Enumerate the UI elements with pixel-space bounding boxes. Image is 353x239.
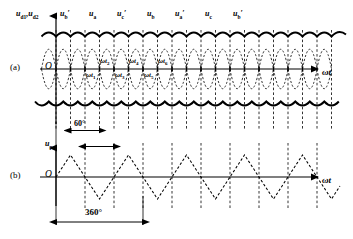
phase-label-b-prime-2: ub′: [233, 10, 243, 20]
period-360-label: 360°: [85, 208, 102, 217]
panel-b-x-axis-label: ωt: [322, 176, 331, 185]
time-mark-wt2: ωt2: [100, 58, 110, 66]
panel-a-x-axis-label: ωt: [322, 68, 331, 77]
figure-root: ud1,ud2 ub′ ua uc′ ub ua′ uc ub′ (a) O ω…: [0, 0, 353, 239]
interval-60-label: 60°: [74, 120, 85, 128]
panel-b-grid-lines: [85, 143, 317, 208]
time-mark-wt6: ωt6: [158, 58, 168, 66]
phase-label-c: uc: [205, 10, 212, 20]
phase-label-a: ua: [89, 10, 96, 20]
panel-a-tag: (a): [10, 63, 20, 72]
waveform-svg: [0, 0, 353, 239]
phase-label-b-prime-1: ub′: [60, 10, 70, 20]
phase-label-c-prime: uc′: [117, 10, 126, 20]
time-mark-wt5: ωt5: [144, 72, 154, 80]
time-mark-wt1: ωt1: [86, 72, 96, 80]
time-mark-wt3: ωt3: [115, 72, 125, 80]
phase-label-a-prime: ua′: [175, 10, 184, 20]
phase-label-b: ub: [147, 10, 155, 20]
panel-a-upper-envelope: [42, 32, 347, 37]
time-mark-wt4: ωt4: [129, 58, 139, 66]
panel-b-tag: (b): [10, 171, 21, 180]
panel-b-y-axis-label: up: [45, 140, 53, 150]
panel-a-origin-label: O: [45, 62, 52, 72]
panel-b-origin-label: O: [45, 170, 52, 180]
panel-a-y-axis-label: ud1,ud2: [16, 10, 39, 20]
